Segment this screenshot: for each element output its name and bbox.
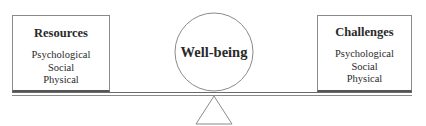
fulcrum-triangle <box>196 96 232 124</box>
list-item: Physical <box>318 73 411 86</box>
challenges-title: Challenges <box>318 25 411 39</box>
list-item: Psychological <box>318 48 411 61</box>
list-item: Psychological <box>13 49 109 62</box>
list-item: Social <box>318 61 411 74</box>
well-being-label: Well-being <box>175 44 253 60</box>
resources-box: Resources Psychological Social Physical <box>12 15 110 92</box>
challenges-box: Challenges Psychological Social Physical <box>317 15 412 92</box>
resources-list: Psychological Social Physical <box>13 49 109 87</box>
challenges-list: Psychological Social Physical <box>318 48 411 86</box>
list-item: Social <box>13 62 109 75</box>
list-item: Physical <box>13 74 109 87</box>
resources-title: Resources <box>13 26 109 40</box>
